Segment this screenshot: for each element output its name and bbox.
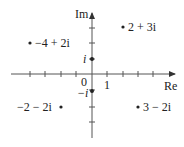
point-neg4-plus-2i-marker xyxy=(28,41,31,44)
point-2-plus-3i-label: 2 + 3i xyxy=(128,20,157,34)
point-neg2-minus-2i-marker xyxy=(59,105,62,108)
complex-plane-diagram: Im Re 0 1 i −i 2 + 3i −4 + 2i −2 − 2i 3 … xyxy=(0,0,184,147)
point-neg4-plus-2i-label: −4 + 2i xyxy=(35,36,71,50)
point-2-plus-3i-marker xyxy=(121,25,124,28)
point-i-marker xyxy=(90,57,94,61)
real-axis-label: Re xyxy=(164,79,177,93)
point-3-minus-2i-marker xyxy=(136,105,139,108)
unit-label: 1 xyxy=(104,78,110,92)
imag-axis-label: Im xyxy=(75,7,89,21)
point-3-minus-2i-label: 3 − 2i xyxy=(143,100,172,114)
point-neg2-minus-2i-label: −2 − 2i xyxy=(17,100,53,114)
point-i-label: i xyxy=(83,52,86,66)
point-neg-i-marker xyxy=(90,89,94,93)
point-neg-i-label: −i xyxy=(77,86,88,100)
